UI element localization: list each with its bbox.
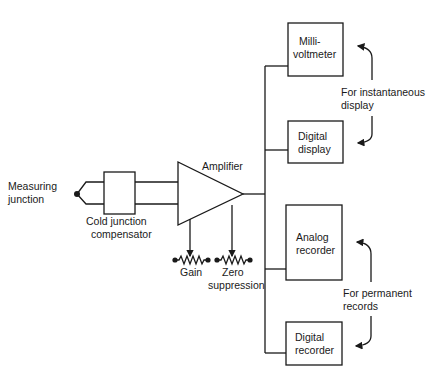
analog-recorder-label-1: Analog: [296, 231, 329, 243]
permanent-records-bracket: For permanent records: [343, 242, 412, 346]
digital-recorder-label-2: recorder: [295, 344, 335, 356]
thermocouple-wire-lower: [77, 194, 104, 204]
amplifier-label: Amplifier: [202, 160, 243, 172]
thermocouple-wire-upper: [77, 182, 104, 194]
permanent-label-2: records: [343, 300, 378, 312]
amplifier: Amplifier: [178, 160, 265, 225]
measuring-junction-label-2: junction: [7, 193, 44, 205]
instantaneous-label-1: For instantaneous: [341, 86, 425, 98]
compensator-label-1: Cold junction: [86, 215, 147, 227]
digital-display-box: [288, 121, 343, 163]
permanent-label-1: For permanent: [343, 287, 412, 299]
curved-arrow-down-icon: [358, 116, 372, 143]
digital-display-block: Digital display: [265, 121, 343, 163]
curved-arrow-up-icon: [358, 46, 372, 80]
millivoltmeter-label-2: voltmeter: [293, 48, 337, 60]
gain-resistor-icon: [175, 256, 208, 264]
measuring-junction: Measuring junction: [7, 180, 104, 205]
compensator-box: [104, 172, 135, 214]
analog-recorder-block: Analog recorder: [265, 205, 342, 280]
compensator-label-2: compensator: [91, 228, 152, 240]
digital-recorder-label-1: Digital: [295, 331, 324, 343]
zero-resistor-icon: [217, 256, 250, 264]
zero-label-1: Zero: [222, 266, 244, 278]
curved-arrow-up-icon: [357, 242, 371, 282]
measuring-junction-label-1: Measuring: [8, 180, 57, 192]
gain-potentiometer: Gain: [172, 219, 210, 278]
block-diagram: Measuring junction Cold junction compens…: [0, 0, 442, 382]
instantaneous-label-2: display: [341, 99, 374, 111]
millivoltmeter-block: Milli- voltmeter: [265, 23, 343, 76]
analog-recorder-label-2: recorder: [296, 244, 336, 256]
zero-suppression-potentiometer: Zero suppression: [208, 205, 265, 291]
gain-label: Gain: [180, 266, 202, 278]
millivoltmeter-label-1: Milli-: [299, 35, 321, 47]
digital-display-label-1: Digital: [298, 130, 327, 142]
digital-display-label-2: display: [298, 143, 331, 155]
curved-arrow-down-icon: [356, 316, 371, 346]
digital-recorder-block: Digital recorder: [265, 322, 342, 365]
zero-label-2: suppression: [208, 279, 265, 291]
instantaneous-display-bracket: For instantaneous display: [341, 46, 425, 143]
